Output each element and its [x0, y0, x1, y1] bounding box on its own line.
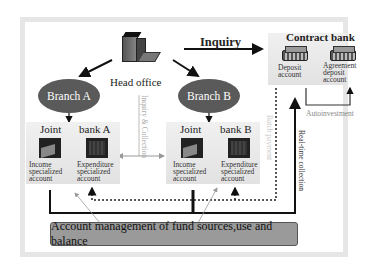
expenditure-account-image [86, 138, 108, 158]
branch-b-node: Branch B [178, 79, 240, 113]
server-icon [282, 46, 308, 60]
autoinvestment-line [306, 88, 350, 105]
income-account-image [39, 138, 61, 158]
head-office-node: Head office [110, 32, 180, 82]
expenditure-account-image [228, 138, 250, 158]
income-account-label-a: Income specialized account [29, 161, 62, 182]
bank-a-label: bank A [79, 123, 110, 135]
joint-label-a: Joint [40, 123, 61, 135]
income-account-image [181, 138, 203, 158]
expenditure-account-label-a: Expenditure specialized account [77, 161, 114, 182]
batch-payment-label: Batch payment [265, 115, 274, 160]
account-management-box: Account management of fund sources,use a… [50, 222, 298, 246]
office-building-icon [122, 32, 142, 60]
inquiry-label: Inquiry [200, 35, 241, 50]
head-office-label: Head office [110, 76, 161, 88]
inquiry-collection-label: Inquiry & Collection [140, 95, 149, 158]
deposit-account-label: Deposit account [278, 64, 301, 78]
footer-pointer-b [198, 188, 217, 223]
bank-b-label: bank B [220, 123, 251, 135]
income-account-label-b: Income specialized account [173, 161, 206, 182]
joint-label-b: Joint [180, 123, 201, 135]
expenditure-account-label-b: Expenditure specialized account [221, 161, 258, 182]
branch-a-node: Branch A [38, 79, 100, 113]
arrow-head-to-branch-a [80, 60, 112, 76]
contract-bank-title: Contract bank [286, 31, 355, 43]
autoinvestment-label: Autoinvestment [306, 110, 354, 117]
agreement-deposit-account-label: Agreement deposit account [323, 62, 356, 83]
realtime-collection-label: Real-time collection [297, 130, 306, 191]
server-icon [330, 46, 356, 60]
